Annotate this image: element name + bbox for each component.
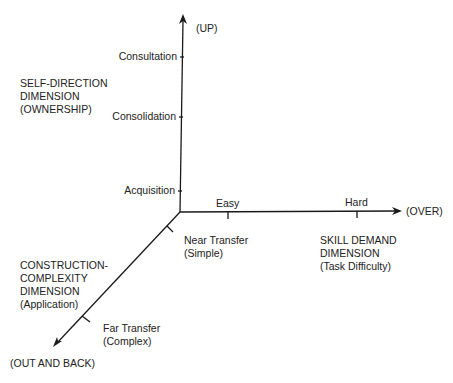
far-transfer-line: Far Transfer [103,322,160,335]
tick-label-easy: Easy [216,197,239,210]
near-transfer-line: Near Transfer [184,234,248,247]
tick-label-consolidation: Consolidation [112,110,176,123]
dimension-line: SKILL DEMAND [320,234,397,247]
tick-label-acquisition: Acquisition [124,184,175,197]
far-transfer-line: (Complex) [103,335,160,348]
dimension-line: DIMENSION [20,285,108,298]
far-transfer-label: Far Transfer (Complex) [103,322,160,348]
dimension-line: (Task Difficulty) [320,260,397,273]
out-and-back-direction-label: (OUT AND BACK) [10,357,95,370]
dimension-line: DIMENSION [320,247,397,260]
over-direction-label: (OVER) [406,205,443,218]
dimension-line: (Application) [20,298,108,311]
tick-label-consultation: Consultation [119,50,177,63]
near-transfer-label: Near Transfer (Simple) [184,234,248,260]
skill-demand-dimension-label: SKILL DEMAND DIMENSION (Task Difficulty) [320,234,397,273]
self-direction-dimension-label: SELF-DIRECTION DIMENSION (OWNERSHIP) [20,77,108,116]
vertical-axis-line [180,20,183,212]
tick-near-transfer [167,226,173,232]
up-direction-label: (UP) [196,22,218,35]
horizontal-axis-line [180,211,396,212]
three-dimension-axes [0,0,453,383]
tick-far-transfer [82,316,90,322]
dimension-line: (OWNERSHIP) [20,103,108,116]
dimension-line: SELF-DIRECTION [20,77,108,90]
construction-complexity-dimension-label: CONSTRUCTION- COMPLEXITY DIMENSION (Appl… [20,259,108,311]
tick-label-hard: Hard [345,196,368,209]
dimension-line: DIMENSION [20,90,108,103]
dimension-line: CONSTRUCTION- [20,259,108,272]
dimension-line: COMPLEXITY [20,272,108,285]
near-transfer-line: (Simple) [184,247,248,260]
